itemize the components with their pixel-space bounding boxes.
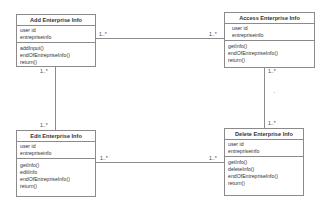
multiplicity-add-edit-top: 1..*: [40, 68, 48, 74]
association-add-access: [95, 38, 224, 39]
multiplicity-add-edit-bottom: 1..*: [40, 122, 48, 128]
attribute: user id: [20, 27, 92, 34]
class-operations: addInput() endOfEntrepriseInfo() return(…: [17, 43, 95, 68]
operation: editInfo: [20, 169, 92, 176]
class-operations: getInfo() deleteInfo() endOfEntrepriseIn…: [225, 157, 303, 189]
multiplicity-add-access-left: 1..*: [99, 31, 107, 37]
operation: endOfEntrepriseInfo(): [20, 176, 92, 183]
operation: endOfEntrepriseInfo(): [20, 52, 92, 59]
attribute: user id: [20, 143, 92, 150]
class-add-enterprise-info: Add Enterprise Info user id entreprisein…: [16, 14, 96, 67]
class-title: Delete Enterprise Info: [225, 129, 303, 140]
attribute: entrepriseinfo: [232, 32, 311, 39]
multiplicity-add-access-right: 1..*: [209, 31, 217, 37]
operation: getInfo(): [228, 159, 300, 166]
operation: return(): [228, 57, 311, 64]
class-attributes: user id entrepriseinfo: [17, 26, 95, 44]
operation: getInfo(): [228, 43, 311, 50]
class-attributes: user id entrepriseinfo: [225, 140, 303, 158]
class-attributes: user id entrepriseinfo: [17, 142, 95, 160]
operation: return(): [20, 183, 92, 190]
class-access-enterprise-info: Access Enterprise Info user id entrepris…: [224, 12, 315, 68]
class-edit-enterprise-info: Edit Enterprise Info user id entreprisei…: [16, 130, 96, 197]
class-operations: getInfo() endOfEntrepriseInfo() return(): [225, 41, 314, 66]
operation: addInput(): [20, 45, 92, 52]
class-delete-enterprise-info: Delete Enterprise Info user id entrepris…: [224, 128, 304, 196]
attribute: user id: [232, 25, 311, 32]
operation: return(): [228, 180, 300, 187]
class-title: Access Enterprise Info: [225, 13, 314, 24]
stray-dot: [274, 92, 275, 93]
class-title: Add Enterprise Info: [17, 15, 95, 26]
operation: return(): [20, 59, 92, 66]
multiplicity-access-delete-bottom: 1..*: [268, 120, 276, 126]
multiplicity-edit-delete-right: 1..*: [209, 155, 217, 161]
class-attributes: user id entrepriseinfo: [225, 24, 314, 42]
attribute: entrepriseinfo: [228, 148, 300, 155]
attribute: entrepriseinfo: [20, 34, 92, 41]
attribute: entrepriseinfo: [20, 150, 92, 157]
operation: deleteInfo(): [228, 166, 300, 173]
association-edit-delete: [96, 162, 224, 163]
class-title: Edit Enterprise Info: [17, 131, 95, 142]
class-operations: getInfo() editInfo endOfEntrepriseInfo()…: [17, 159, 95, 192]
operation: endOfEntrepriseInfo(): [228, 173, 300, 180]
multiplicity-access-delete-top: 1..*: [268, 68, 276, 74]
attribute: user id: [228, 141, 300, 148]
operation: getInfo(): [20, 162, 92, 169]
association-add-edit: [55, 66, 56, 130]
multiplicity-edit-delete-left: 1..*: [100, 155, 108, 161]
operation: endOfEntrepriseInfo(): [228, 50, 311, 57]
association-access-delete: [264, 67, 265, 128]
